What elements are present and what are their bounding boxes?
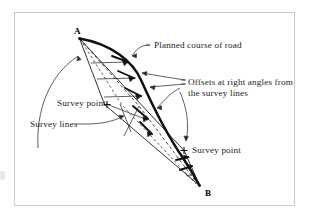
survey-lines-text-dash-svg <box>0 0 309 219</box>
figure-root: A B Planned course of road Offsets at ri… <box>0 0 309 219</box>
offsets-text-dash <box>181 80 186 84</box>
